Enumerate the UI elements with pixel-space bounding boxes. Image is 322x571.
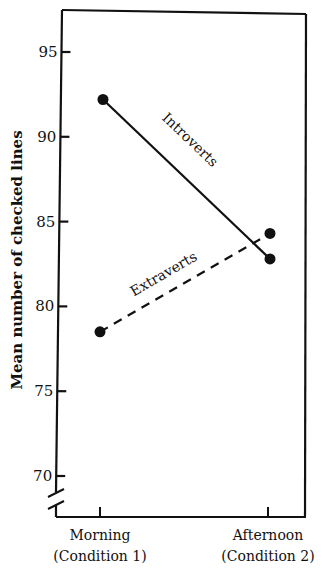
y-tick-label: 75 [34,382,53,400]
x-ticks: Morning(Condition 1)Afternoon(Condition … [53,507,314,564]
y-axis [56,10,62,492]
series-label: Extraverts [127,248,199,299]
y-tick-label: 70 [33,467,52,485]
y-axis-title: Mean number of checked lines [8,130,26,389]
y-tick-label: 90 [37,128,56,146]
data-point [98,94,109,105]
y-ticks: 707580859095 [33,43,70,485]
interaction-line-chart: 707580859095 Morning(Condition 1)Afterno… [0,0,322,571]
x-category-sublabel: (Condition 1) [53,548,146,564]
data-point [265,253,276,264]
x-category-sublabel: (Condition 2) [221,548,314,564]
y-tick-label: 85 [36,213,55,231]
x-category-label: Morning [70,527,131,543]
data-point [265,228,276,239]
series-line [100,233,270,331]
x-category-label: Afternoon [232,527,304,543]
y-tick-label: 95 [38,43,57,61]
data-point [95,326,106,337]
series-line [103,99,270,258]
series-introverts: Introverts [98,94,276,264]
y-tick-label: 80 [35,297,54,315]
series-group: IntrovertsExtraverts [95,94,276,337]
series-extraverts: Extraverts [95,228,276,337]
